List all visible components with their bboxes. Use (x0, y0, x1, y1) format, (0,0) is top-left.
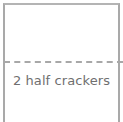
fold-dashed-line (4, 61, 123, 63)
caption-label: 2 half crackers (0, 73, 123, 88)
